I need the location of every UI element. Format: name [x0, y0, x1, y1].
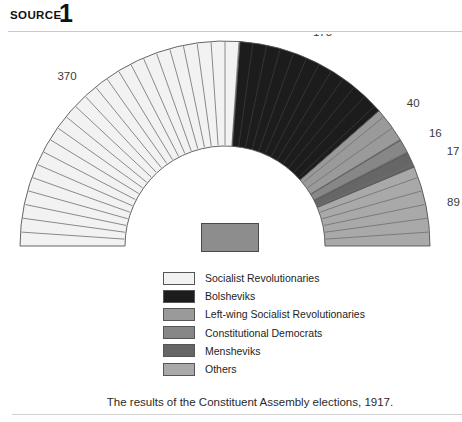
- legend-swatch-icon: [163, 308, 195, 321]
- legend: Socialist Revolutionaries Bolsheviks Lef…: [163, 269, 453, 378]
- legend-swatch-icon: [163, 326, 195, 339]
- legend-item-label: Others: [205, 363, 237, 375]
- segment-value-label: 175: [313, 34, 332, 38]
- segment-value-label: 17: [447, 145, 460, 157]
- legend-item-label: Bolsheviks: [205, 290, 255, 302]
- segment-value-label: 89: [447, 196, 460, 208]
- center-podium-block: [201, 223, 259, 252]
- legend-swatch-icon: [163, 344, 195, 357]
- hemicycle-segment: [20, 41, 240, 246]
- legend-swatch-icon: [163, 290, 195, 303]
- caption: The results of the Constituent Assembly …: [0, 396, 462, 408]
- legend-item-label: Mensheviks: [205, 345, 260, 357]
- legend-item: Mensheviks: [163, 342, 453, 360]
- segment-value-label: 370: [57, 70, 76, 82]
- caption-divider: [12, 414, 462, 415]
- source-header: SOURCE 1: [0, 0, 462, 34]
- legend-item-label: Socialist Revolutionaries: [205, 272, 319, 284]
- segment-value-label: 40: [407, 97, 420, 109]
- legend-item: Bolsheviks: [163, 287, 453, 305]
- header-divider: [8, 31, 462, 32]
- source-number: 1: [59, 1, 73, 26]
- legend-item-label: Left-wing Socialist Revolutionaries: [205, 308, 365, 320]
- legend-item-label: Constitutional Democrats: [205, 327, 322, 339]
- legend-swatch-icon: [163, 363, 195, 376]
- legend-item: Socialist Revolutionaries: [163, 269, 453, 287]
- legend-item: Others: [163, 360, 453, 378]
- legend-swatch-icon: [163, 272, 195, 285]
- legend-item: Constitutional Democrats: [163, 324, 453, 342]
- legend-item: Left-wing Socialist Revolutionaries: [163, 305, 453, 323]
- source-label: SOURCE: [10, 9, 62, 21]
- segment-value-label: 16: [429, 127, 442, 139]
- caption-text: The results of the Constituent Assembly …: [69, 396, 393, 408]
